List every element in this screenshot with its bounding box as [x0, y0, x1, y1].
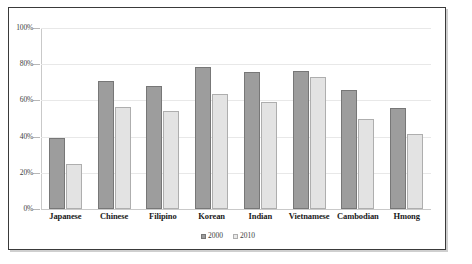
x-axis-label-korean: Korean [187, 212, 236, 221]
legend-label-2010: 2010 [240, 231, 255, 240]
gridline [41, 64, 431, 65]
y-axis-tick [33, 173, 40, 174]
chart-legend: 20002010 [9, 232, 447, 240]
y-axis-tick [33, 100, 40, 101]
bar-vietnamese-2010 [310, 77, 326, 209]
x-axis-label-japanese: Japanese [41, 212, 90, 221]
bar-indian-2010 [261, 102, 277, 209]
y-axis-tick [33, 28, 40, 29]
plot-area [41, 28, 431, 209]
bar-japanese-2010 [66, 164, 82, 209]
legend-swatch-2000 [201, 234, 206, 239]
y-axis-label: 80% [9, 60, 33, 68]
y-axis-tick [33, 137, 40, 138]
y-axis-label: 40% [9, 133, 33, 141]
y-axis-label: 0% [9, 205, 33, 213]
y-axis-label: 100% [9, 24, 33, 32]
bar-korean-2010 [212, 94, 228, 209]
y-axis-tick [33, 209, 40, 210]
bar-vietnamese-2000 [293, 71, 309, 209]
bar-chinese-2010 [115, 107, 131, 209]
bar-japanese-2000 [49, 138, 65, 209]
y-axis-tick [33, 64, 40, 65]
bar-hmong-2000 [390, 108, 406, 209]
legend-item-2010: 2010 [233, 232, 255, 240]
legend-swatch-2010 [233, 234, 238, 239]
bar-korean-2000 [195, 67, 211, 209]
bar-filipino-2010 [163, 111, 179, 209]
legend-label-2000: 2000 [208, 231, 223, 240]
bar-indian-2000 [244, 72, 260, 209]
bar-filipino-2000 [146, 86, 162, 209]
y-axis-label: 60% [9, 96, 33, 104]
x-axis-label-cambodian: Cambodian [334, 212, 383, 221]
bar-chinese-2000 [98, 81, 114, 210]
gridline [41, 28, 431, 29]
bar-cambodian-2010 [358, 119, 374, 210]
x-axis-label-vietnamese: Vietnamese [285, 212, 334, 221]
x-axis-label-hmong: Hmong [382, 212, 431, 221]
legend-item-2000: 2000 [201, 232, 223, 240]
bar-hmong-2010 [407, 134, 423, 209]
bar-cambodian-2000 [341, 90, 357, 209]
chart-frame: 100%80%60%40%20%0% JapaneseChineseFilipi… [8, 7, 446, 250]
gridline [41, 209, 431, 210]
x-axis-label-filipino: Filipino [139, 212, 188, 221]
x-axis-label-indian: Indian [236, 212, 285, 221]
y-axis-label: 20% [9, 169, 33, 177]
x-axis-label-chinese: Chinese [90, 212, 139, 221]
